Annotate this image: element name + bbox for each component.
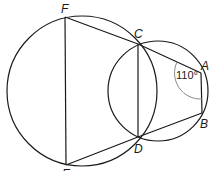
segment-bd <box>138 113 202 137</box>
point-label-f: F <box>61 2 69 16</box>
segment-ef <box>65 17 66 165</box>
point-label-e: E <box>62 167 71 171</box>
point-label-d: D <box>134 142 143 156</box>
point-label-a: A <box>200 59 209 73</box>
point-label-b: B <box>200 117 208 131</box>
geometry-figure: 110° F C A B D E <box>0 0 210 171</box>
segment-ab <box>201 73 202 113</box>
angle-label: 110° <box>176 69 198 81</box>
small-circle <box>108 41 208 141</box>
point-label-c: C <box>134 27 143 41</box>
